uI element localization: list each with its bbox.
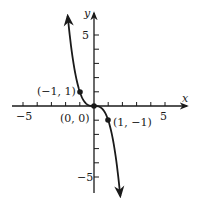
point-label-origin: (0, 0) [60,112,90,125]
point-origin [91,103,97,109]
point-neg1-1 [77,89,83,95]
point-label-1-neg1: (1, −1) [113,116,152,129]
y-tick-label-neg5: −5 [77,171,93,184]
x-tick-label-5: 5 [160,110,167,123]
cubic-graph: −5 5 5 −5 x y (−1, 1) (0, 0) (1, −1) [0,0,197,202]
point-1-neg1 [105,117,111,123]
point-label-neg1-1: (−1, 1) [37,85,76,98]
x-tick-label-neg5: −5 [16,110,32,123]
x-axis-label: x [182,92,189,105]
y-axis-label: y [83,7,91,20]
y-tick-label-5: 5 [82,29,89,42]
